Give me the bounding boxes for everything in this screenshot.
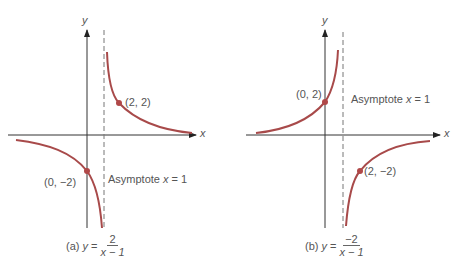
panel-b-graph <box>246 30 440 228</box>
panel-a-point-label-2: (0, −2) <box>44 176 76 188</box>
panel-a-curve-upper <box>107 52 192 133</box>
panel-a-x-label: x <box>200 127 206 139</box>
panel-a-graph <box>8 30 196 228</box>
panel-a-fraction: 2 x − 1 <box>100 233 124 258</box>
panel-b-y-label: y <box>322 14 328 26</box>
panel-a-point-label-1: (2, 2) <box>125 96 151 108</box>
panel-b-point-label-1: (0, 2) <box>296 88 322 100</box>
panel-a-point-0-neg2 <box>84 168 90 174</box>
panel-b-fraction: −2 x − 1 <box>339 233 363 258</box>
panel-b-x-label: x <box>444 127 450 139</box>
panel-a-point-2-2 <box>116 100 122 106</box>
panel-a-y-label: y <box>82 14 88 26</box>
panel-a-asymptote-label: Asymptote x = 1 <box>108 173 187 185</box>
panel-b-caption: (b) y = −2 x − 1 <box>305 233 364 258</box>
panel-b-point-0-2 <box>322 99 328 105</box>
panel-b-curve-lower <box>346 141 430 226</box>
panel-b-point-label-2: (2, −2) <box>364 165 396 177</box>
panel-a-caption: (a) y = 2 x − 1 <box>66 233 125 258</box>
graphs-canvas <box>0 0 456 268</box>
panel-b-point-2-neg2 <box>357 168 363 174</box>
panel-b-asymptote-label: Asymptote x = 1 <box>351 93 430 105</box>
